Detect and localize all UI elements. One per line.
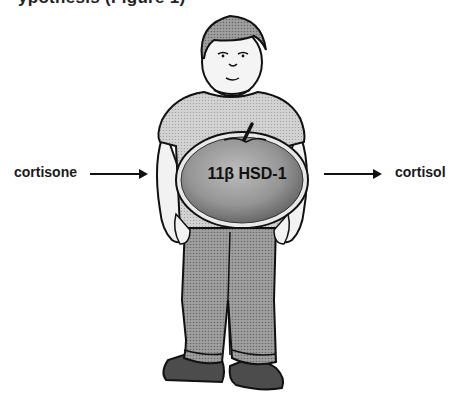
input-label: cortisone <box>14 164 77 180</box>
output-arrow-icon <box>324 173 380 175</box>
pants-icon <box>182 225 276 364</box>
output-label: cortisol <box>395 164 446 180</box>
input-arrow-icon <box>90 173 146 175</box>
boy-illustration <box>0 0 464 400</box>
enzyme-label: 11β HSD-1 <box>199 165 295 183</box>
head-icon <box>202 16 266 96</box>
